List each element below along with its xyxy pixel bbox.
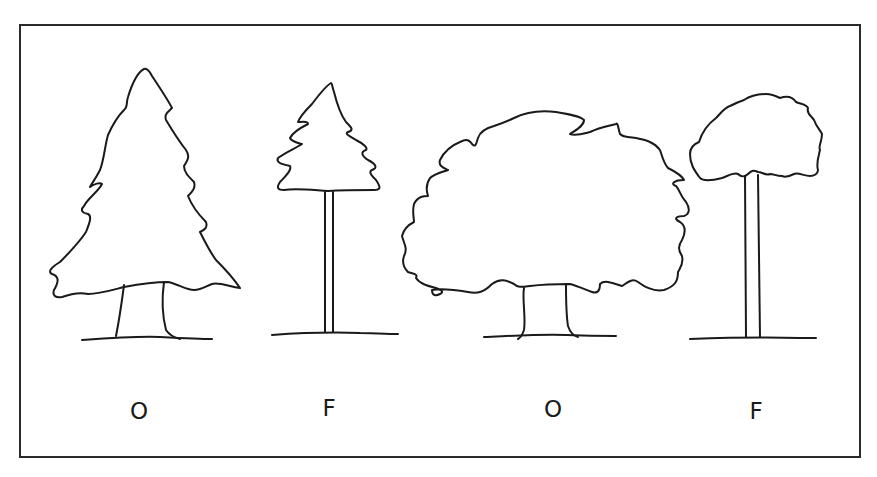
tree-1-label: O [130,400,148,423]
tree-4-label: F [749,400,762,423]
tree-2-label: F [322,397,335,420]
tree-1-ground [82,337,212,340]
tree-3-label: O [544,398,562,421]
tree-3-deciduous-open [402,111,689,339]
tree-4-trunk-right [758,175,760,337]
tree-4-trunk-left [745,176,746,337]
tree-3-ground [484,335,616,337]
tree-4-ground [690,338,816,339]
tree-1-conifer-open [50,69,240,340]
tree-3-trunk-right [566,284,578,337]
tree-1-trunk-right [163,282,180,339]
tree-4-deciduous-forest [690,94,822,339]
tree-1-trunk-left [116,285,124,336]
tree-2-conifer-forest [272,83,398,335]
tree-3-crown [402,111,689,295]
tree-1-crown [50,69,240,297]
tree-3-trunk-left [518,288,525,339]
tree-2-ground [272,333,398,335]
figure-frame [20,25,860,457]
tree-4-crown [690,94,822,180]
tree-2-crown [278,83,380,191]
